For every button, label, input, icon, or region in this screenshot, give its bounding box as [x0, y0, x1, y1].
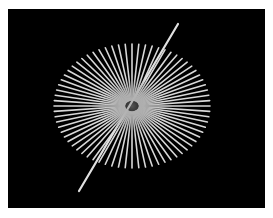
- center-blur: [102, 76, 162, 136]
- radial-star-pattern: [0, 0, 273, 218]
